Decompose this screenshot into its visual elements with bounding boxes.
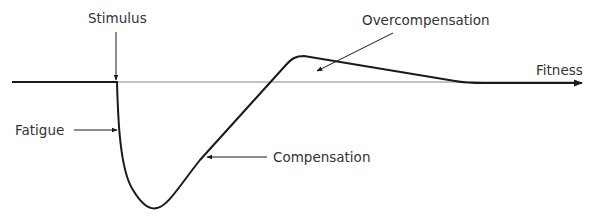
fatigue-label: Fatigue — [15, 122, 64, 138]
stimulus-label: Stimulus — [88, 10, 147, 26]
overcompensation-label: Overcompensation — [362, 12, 490, 28]
fitness-label: Fitness — [536, 62, 583, 78]
supercompensation-diagram: Stimulus Fatigue Compensation Overcompen… — [0, 0, 611, 221]
fitness-curve — [12, 56, 485, 208]
compensation-label: Compensation — [273, 149, 370, 165]
